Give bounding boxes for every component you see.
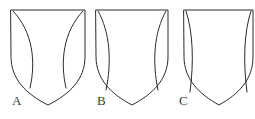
shield-group-a[interactable]: A xyxy=(11,10,85,108)
shield-outline-b[interactable] xyxy=(96,10,168,105)
shield-group-b[interactable]: B xyxy=(96,10,168,108)
shield-label-b: B xyxy=(97,93,106,108)
shield-outline-a[interactable] xyxy=(11,10,85,105)
shield-group-c[interactable]: C xyxy=(179,10,253,108)
shield-label-c: C xyxy=(179,93,188,108)
shield-outline-c[interactable] xyxy=(184,10,253,105)
shield-label-a: A xyxy=(12,93,22,108)
figure-canvas: A B C xyxy=(0,0,255,119)
shield-figure-svg: A B C xyxy=(0,0,255,119)
